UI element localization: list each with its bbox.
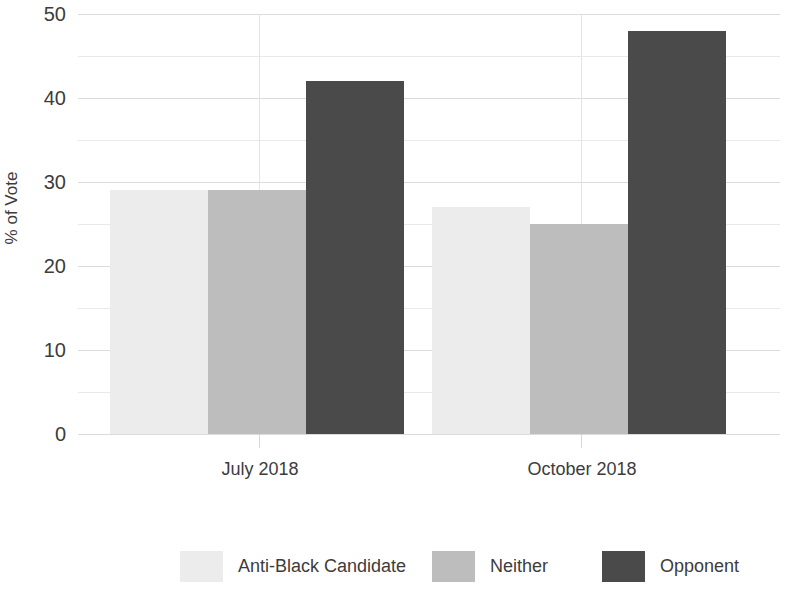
x-axis-tick-labels: July 2018 October 2018 xyxy=(0,458,788,488)
legend-swatch-neither xyxy=(432,551,475,582)
legend-swatch-opponent xyxy=(602,551,645,582)
legend-item-opponent: Opponent xyxy=(602,548,739,584)
x-label-july-2018: July 2018 xyxy=(160,458,360,480)
bar-july-anti-black-candidate xyxy=(110,190,208,434)
bar-october-anti-black-candidate xyxy=(432,207,530,434)
legend-label-neither: Neither xyxy=(490,556,548,576)
y-tick-10: 10 xyxy=(0,340,66,360)
y-tick-40: 40 xyxy=(0,88,66,108)
legend-item-anti-black-candidate: Anti-Black Candidate xyxy=(180,548,406,584)
legend-swatch-anti-black-candidate xyxy=(180,551,223,582)
bar-october-opponent xyxy=(628,31,726,434)
gridline-50 xyxy=(78,14,780,15)
x-label-october-2018: October 2018 xyxy=(482,458,682,480)
bar-chart: 50 40 30 20 10 0 % of Vote xyxy=(0,0,788,592)
bar-july-opponent xyxy=(306,81,404,434)
plot-area xyxy=(78,14,780,434)
gridline-0 xyxy=(78,434,780,435)
legend-item-neither: Neither xyxy=(432,548,548,584)
legend-label-anti-black-candidate: Anti-Black Candidate xyxy=(238,556,406,576)
y-axis-title: % of Vote xyxy=(2,108,22,308)
legend-label-opponent: Opponent xyxy=(660,556,739,576)
y-tick-0: 0 xyxy=(0,424,66,444)
bar-october-neither xyxy=(530,224,628,434)
bar-july-neither xyxy=(208,190,306,434)
x-tick-october xyxy=(581,434,582,448)
chart-legend: Anti-Black Candidate Neither Opponent xyxy=(0,548,788,588)
x-tick-july xyxy=(259,434,260,448)
y-tick-50: 50 xyxy=(0,4,66,24)
